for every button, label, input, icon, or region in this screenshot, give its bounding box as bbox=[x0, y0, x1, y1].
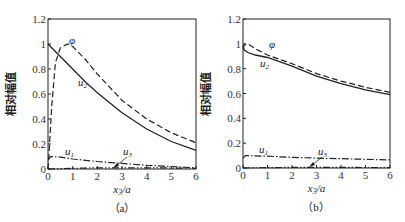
panel-caption: （b） bbox=[302, 201, 330, 213]
y-tick-label: 1 bbox=[236, 38, 242, 50]
y-tick-label: 0.2 bbox=[227, 137, 241, 149]
series-u3 bbox=[243, 167, 390, 168]
y-tick-label: 0 bbox=[41, 163, 47, 175]
series-annotation: u1 bbox=[65, 145, 74, 159]
y-tick-label: 0.6 bbox=[32, 88, 46, 100]
x-tick-label: 1 bbox=[70, 170, 76, 182]
series-annotation: u2 bbox=[78, 76, 88, 90]
y-tick-label: 0.8 bbox=[32, 63, 46, 75]
plot-frame bbox=[243, 19, 390, 168]
chart-panel-a: 012345600.20.40.60.811.2相对幅值x3/a（a）φu2u1… bbox=[4, 13, 199, 214]
y-tick-label: 0.2 bbox=[32, 138, 46, 150]
x-tick-label: 2 bbox=[289, 169, 295, 181]
series-annotation: u2 bbox=[260, 57, 270, 71]
y-axis-label: 相对幅值 bbox=[4, 72, 18, 116]
x-tick-label: 5 bbox=[363, 169, 369, 181]
y-tick-label: 1.2 bbox=[32, 13, 46, 25]
series-annotation: φ bbox=[69, 34, 75, 46]
y-tick-label: 0.4 bbox=[227, 112, 241, 124]
x-tick-label: 4 bbox=[144, 170, 150, 182]
series-annotation: u3 bbox=[123, 145, 133, 159]
y-tick-label: 0 bbox=[236, 162, 242, 174]
panel-caption: （a） bbox=[109, 202, 136, 214]
x-tick-label: 3 bbox=[119, 170, 125, 182]
x-axis-label: x3/a bbox=[112, 183, 131, 197]
y-tick-label: 1.2 bbox=[227, 13, 241, 25]
x-tick-label: 0 bbox=[45, 170, 51, 182]
x-tick-label: 6 bbox=[193, 170, 199, 182]
series-annotation: u1 bbox=[259, 143, 268, 157]
series-annotation: φ bbox=[269, 38, 275, 50]
y-tick-label: 0.6 bbox=[227, 88, 241, 100]
y-axis-label: 相对幅值 bbox=[199, 72, 213, 116]
chart-canvas: 012345600.20.40.60.811.2相对幅值x3/a（a）φu2u1… bbox=[0, 0, 405, 222]
x-tick-label: 1 bbox=[265, 169, 271, 181]
series-annotation: u3 bbox=[318, 145, 328, 159]
y-tick-label: 0.8 bbox=[227, 63, 241, 75]
chart-panel-b: 012345600.20.40.60.811.2相对幅值x3/a（b）φu2u1… bbox=[199, 13, 393, 213]
x-tick-label: 0 bbox=[240, 169, 246, 181]
x-tick-label: 4 bbox=[338, 169, 344, 181]
x-tick-label: 2 bbox=[95, 170, 101, 182]
y-tick-label: 1 bbox=[41, 38, 47, 50]
x-tick-label: 5 bbox=[169, 170, 175, 182]
y-tick-label: 0.4 bbox=[32, 113, 46, 125]
x-axis-label: x3/a bbox=[307, 182, 326, 196]
x-tick-label: 6 bbox=[387, 169, 393, 181]
x-tick-label: 3 bbox=[314, 169, 320, 181]
